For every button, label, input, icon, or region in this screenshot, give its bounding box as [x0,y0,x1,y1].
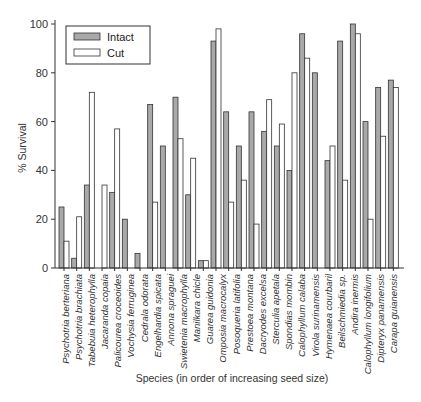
y-tick-label: 60 [36,116,48,128]
bar-cut [191,158,196,268]
bar-cut [64,241,69,268]
species-label: Engelhardia spicata [152,274,163,357]
species-label: Hymenaea courbaril [323,273,334,359]
species-label: Calophyllum longifolium [362,274,373,374]
species-label: Guarea guidonia [204,274,215,344]
bar-cut [89,92,94,268]
species-label: Psychotria brachiata [73,274,84,360]
bar-intact [338,41,343,268]
species-label: Virola surinamensis [310,274,321,357]
bar-cut [229,202,234,268]
bar-cut [279,124,284,268]
y-tick-label: 80 [36,67,48,79]
bar-cut [305,58,310,268]
species-label: Palicourea croceoides [112,274,123,368]
species-label: Vochysia ferruginea [125,274,136,358]
bar-intact [300,34,305,268]
bar-intact [148,105,153,268]
bar-cut [267,100,272,268]
bar-intact [287,170,292,268]
survival-bar-chart: 020406080100 Psychotria berterianaPsycho… [0,0,421,402]
bar-cut [393,87,398,268]
bar-cut [292,73,297,268]
bar-cut [203,261,208,268]
bar-intact [122,219,127,268]
legend-label-intact: Intact [107,31,134,43]
bar-intact [262,131,267,268]
bar-intact [388,80,393,268]
y-axis-title: % Survival [16,123,28,173]
bar-cut [77,217,82,268]
species-label: Swietenia macrophylla [178,274,189,369]
bar-intact [350,24,355,268]
legend: Intact Cut [66,26,150,64]
species-label: Posoqueria latifolia [231,274,242,354]
bar-cut [178,139,183,268]
bar-cut [368,219,373,268]
species-label: Beilschmiedia sp. [336,274,347,348]
species-label: Spondias mombin [283,274,294,350]
bar-cut [153,202,158,268]
bar-cut [381,136,386,268]
bar-intact [274,146,279,268]
bar-intact [110,192,115,268]
bar-intact [84,185,89,268]
bar-intact [325,161,330,268]
bar-intact [198,261,203,268]
bar-intact [376,87,381,268]
bar-intact [224,112,229,268]
species-label: Psychotria berteriana [60,274,71,364]
bar-intact [135,253,140,268]
bar-intact [363,122,368,268]
bar-intact [186,195,191,268]
species-label: Sterculia apetala [270,274,281,345]
bar-cut [355,34,360,268]
bar-cut [216,29,221,268]
species-label: Omposia macrocalyx [217,273,228,363]
species-label: Tabebuia heterophylla [86,274,97,367]
bar-intact [59,207,64,268]
bar-cut [254,224,259,268]
species-label: Annona spraguei [165,273,176,347]
bar-intact [72,258,77,268]
legend-swatch-intact [74,33,100,40]
species-label: Manilkara chicle [191,274,202,342]
species-label: Prestoea montana [244,274,255,352]
bar-cut [102,185,107,268]
species-label: Andira inermis [349,274,360,336]
x-axis-labels: Psychotria berterianaPsychotria brachiat… [60,268,400,374]
bar-intact [211,41,216,268]
species-label: Carapa guianensis [388,274,399,353]
bar-intact [312,73,317,268]
bar-intact [173,97,178,268]
bar-intact [249,112,254,268]
bar-cut [330,146,335,268]
species-label: Cedrala odorata [139,274,150,342]
legend-label-cut: Cut [107,47,124,59]
species-label: Calophyllum calaba [296,274,307,357]
species-label: Dacryodes excelsa [257,274,268,354]
x-axis-title: Species (in order of increasing seed siz… [136,372,329,384]
bar-cut [343,180,348,268]
y-tick-label: 20 [36,213,48,225]
y-tick-label: 40 [36,164,48,176]
y-axis-ticks: 020406080100 [30,18,55,274]
legend-swatch-cut [74,49,100,56]
bar-cut [115,129,120,268]
bar-intact [236,146,241,268]
y-tick-label: 0 [42,262,48,274]
bar-intact [160,146,165,268]
bar-cut [241,180,246,268]
species-label: Dipteryx panamensis [375,274,386,363]
y-tick-label: 100 [30,18,48,30]
species-label: Jacaranda copaia [99,274,110,350]
